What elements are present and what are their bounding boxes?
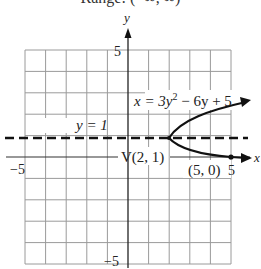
parabola-graph: y x 5 −5 −5 5 x = 3y2 − 6y + 5 y = 1 V(2… (0, 0, 261, 269)
point-label: (5, 0) (188, 162, 221, 179)
x-axis-label: x (253, 150, 260, 165)
vertex-point (167, 136, 171, 140)
point-5-0 (228, 154, 233, 159)
y-axis-arrow-icon (125, 28, 132, 38)
x-tick-left: −5 (10, 162, 25, 177)
parabola-curve (169, 102, 246, 158)
x-tick-right: 5 (228, 163, 235, 178)
asymptote-label: y = 1 (74, 117, 108, 133)
y-axis-label: y (122, 10, 130, 25)
y-tick-top: 5 (114, 44, 121, 59)
y-tick-bottom: −5 (104, 254, 119, 269)
vertex-label: V(2, 1) (121, 149, 164, 166)
equation-label: x = 3y2 − 6y + 5 (133, 91, 232, 109)
lower-arrow-icon (241, 153, 252, 163)
